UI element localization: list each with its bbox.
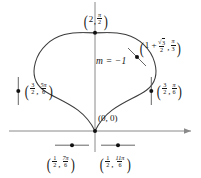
label-point-1-plus-root3-over-2-pi-over-3: ( 1 + √3 2 , π 3 ): [139, 38, 182, 54]
point-3-over-2-5pi-over-6: [16, 89, 20, 93]
comma: ,: [167, 43, 169, 52]
polar-cardioid-figure: ( 2 , π 2 ) ( 1 + √3 2 , π 3: [0, 0, 201, 178]
point-3-over-2-pi-over-6: [149, 89, 153, 93]
comma: ,: [36, 87, 38, 96]
fraction-pi-over-3: π 3: [171, 38, 176, 52]
point-2-pi-over-2: [93, 31, 97, 35]
fraction-1-over-2: 1 2: [52, 155, 57, 169]
point-1-plus-root3-over-2-pi-over-3: [135, 55, 139, 59]
comma: ,: [168, 87, 170, 96]
label-point-3-over-2-pi-over-6: ( 3 2 , π 6 ): [156, 82, 183, 96]
label-point-2-pi-over-2: ( 2 , π 2 ): [83, 12, 108, 26]
fraction-5pi-over-6: 5π 6: [40, 82, 48, 96]
fraction-pi-over-2: π 2: [97, 12, 102, 26]
comma: ,: [58, 160, 60, 169]
comma: ,: [94, 17, 96, 26]
fraction-root3-over-2: √3 2: [157, 38, 166, 54]
label-point-1-over-2-11pi-over-6: ( 1 2 , 11π 6 ): [99, 155, 132, 169]
fraction-3-over-2: 3 2: [162, 82, 167, 96]
point-origin-cusp: [93, 129, 97, 133]
fraction-pi-over-6: π 6: [172, 82, 177, 96]
fraction-7pi-over-6: 7π 6: [62, 155, 70, 169]
label-point-1-over-2-7pi-over-6: ( 1 2 , 7π 6 ): [46, 155, 76, 169]
comma: ,: [111, 160, 113, 169]
point-1-over-2-7pi-over-6: [70, 143, 74, 147]
label-origin: (0, 0): [98, 114, 118, 123]
square-root-icon: √3: [157, 38, 166, 46]
fraction-3-over-2: 3 2: [30, 82, 35, 96]
x-axis-arrow-icon: [184, 128, 191, 134]
slope-annotation: m = −1: [96, 57, 126, 67]
point-1-over-2-11pi-over-6: [116, 143, 120, 147]
label-point-3-over-2-5pi-over-6: ( 3 2 , 5π 6 ): [24, 82, 54, 96]
fraction-11pi-over-6: 11π 6: [115, 155, 126, 169]
fraction-1-over-2: 1 2: [105, 155, 110, 169]
